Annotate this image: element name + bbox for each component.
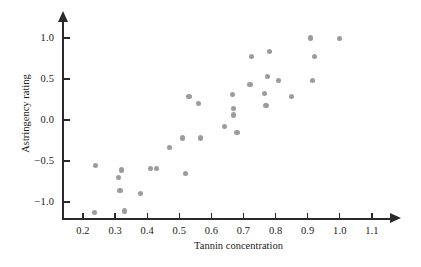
data-point xyxy=(148,166,153,171)
data-point xyxy=(265,74,270,79)
data-point xyxy=(262,91,267,96)
data-point xyxy=(289,94,294,99)
data-point xyxy=(308,35,313,40)
data-point xyxy=(198,135,203,140)
x-axis-tick-label: 0.3 xyxy=(98,225,132,236)
data-point xyxy=(231,106,236,111)
data-point xyxy=(196,101,201,106)
data-point xyxy=(119,167,124,172)
y-axis-title: Astringency rating xyxy=(20,44,31,184)
y-axis-tick-label: 1.0 xyxy=(20,32,54,43)
data-point xyxy=(247,82,252,87)
y-axis-tick xyxy=(64,37,70,38)
x-axis-tick-label: 0.5 xyxy=(162,225,196,236)
x-axis-tick-label: 0.8 xyxy=(259,225,293,236)
data-point xyxy=(222,124,227,129)
data-point xyxy=(122,208,127,213)
data-point xyxy=(231,112,236,117)
x-axis-tick-label: 1.0 xyxy=(323,225,357,236)
data-point xyxy=(167,145,172,150)
data-point xyxy=(337,36,342,41)
x-axis-title: Tannin concentration xyxy=(0,240,421,251)
data-point xyxy=(249,54,254,59)
data-point xyxy=(183,171,188,176)
x-axis-tick xyxy=(82,213,83,219)
data-point xyxy=(138,191,143,196)
x-axis-tick xyxy=(307,213,308,219)
x-axis-tick-label: 0.9 xyxy=(291,225,325,236)
x-axis-tick xyxy=(114,213,115,219)
y-axis-tick xyxy=(64,119,70,120)
data-point xyxy=(186,94,191,99)
scatter-plot-figure: 0.20.30.40.50.60.70.80.91.01.1 1.00.50.0… xyxy=(0,0,421,267)
x-axis-tick xyxy=(275,213,276,219)
data-point xyxy=(230,92,235,97)
y-axis-tick xyxy=(64,160,70,161)
plot-area: 0.20.30.40.50.60.70.80.91.01.1 1.00.50.0… xyxy=(0,0,421,267)
data-point xyxy=(92,210,97,215)
data-point xyxy=(117,188,122,193)
x-axis-tick-label: 0.2 xyxy=(66,225,100,236)
y-axis-tick xyxy=(64,201,70,202)
x-axis-tick xyxy=(371,213,372,219)
x-axis-tick-label: 0.4 xyxy=(130,225,164,236)
data-point xyxy=(180,135,185,140)
x-axis-tick xyxy=(179,213,180,219)
x-axis-tick xyxy=(147,213,148,219)
y-axis-tick-label: −1.0 xyxy=(20,196,54,207)
data-point xyxy=(312,54,317,59)
data-point xyxy=(234,130,239,135)
x-axis-tick-label: 1.1 xyxy=(355,225,389,236)
data-point xyxy=(267,49,272,54)
data-point xyxy=(116,175,121,180)
x-axis-tick-label: 0.6 xyxy=(194,225,228,236)
data-point xyxy=(276,78,281,83)
data-point xyxy=(154,166,159,171)
x-axis-title-text: Tannin concentration xyxy=(194,240,283,251)
x-axis-tick-label: 0.7 xyxy=(227,225,261,236)
data-point xyxy=(93,163,98,168)
x-axis-tick xyxy=(339,213,340,219)
x-axis-line xyxy=(62,218,392,220)
y-axis-tick xyxy=(64,78,70,79)
x-axis-tick xyxy=(211,213,212,219)
x-axis-tick xyxy=(243,213,244,219)
data-point xyxy=(310,78,315,83)
data-point xyxy=(263,103,268,108)
y-axis-arrow-icon xyxy=(58,11,68,22)
x-axis-arrow-icon xyxy=(390,213,401,223)
